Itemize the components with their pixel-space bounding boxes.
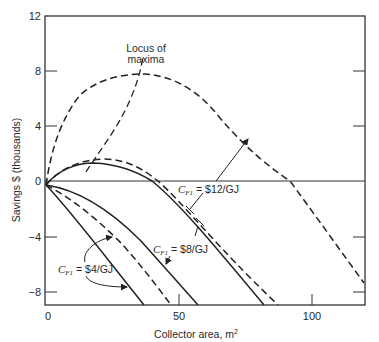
x-axis-title: Collector area, m2 [154,328,238,340]
y-axis-title: Savings $ (thousands) [10,118,22,222]
y-tick-12: 12 [29,10,41,22]
cf12-label: CF1 = $12/GJ [178,183,239,197]
cf8-leader [195,226,198,236]
cf8-arrow [166,256,170,264]
x-tick-0: 0 [45,310,51,322]
y-tick-4: 4 [35,120,41,132]
y-tick-neg8: −8 [28,286,41,298]
y-tick-8: 8 [35,65,41,77]
cf4-label: CF1 = $4/GJ [58,263,113,277]
y-tick-0: 0 [35,175,41,187]
chart: 12 8 4 0 −4 −8 0 50 100 Savings $ (thous… [0,0,379,342]
x-tick-100: 100 [303,310,321,322]
cf4-lower-arrow [86,276,127,287]
x-tick-50: 50 [173,310,185,322]
cf12-arrow [216,139,248,181]
x-ticks [179,294,312,305]
locus-label-line2: maxima [128,53,165,65]
cf8-label: CF1 = $8/GJ [153,243,208,257]
y-tick-neg4: −4 [28,231,41,243]
